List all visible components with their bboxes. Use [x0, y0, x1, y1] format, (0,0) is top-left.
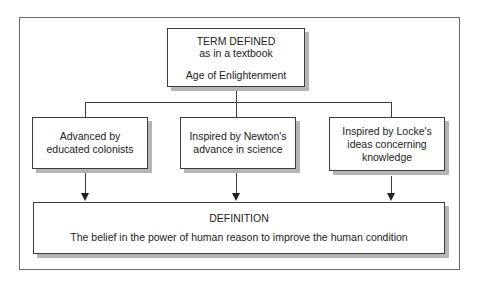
- supporting-text-line: Advanced by: [60, 130, 121, 143]
- connector-left-drop: [85, 102, 86, 117]
- supporting-text-line: ideas concerning: [347, 138, 426, 151]
- connector-horizontal: [85, 102, 392, 103]
- arrow-middle-shaft: [236, 173, 237, 195]
- connector-middle-drop: [236, 102, 237, 117]
- term-defined-subheading: as in a textbook: [199, 47, 273, 59]
- supporting-box-locke: Inspired by Locke's ideas concerning kno…: [329, 117, 445, 171]
- definition-heading: DEFINITION: [209, 212, 269, 225]
- supporting-text-line: Inspired by Locke's: [342, 125, 432, 138]
- arrow-down-icon: [387, 193, 395, 201]
- term-defined-heading: TERM DEFINED: [197, 35, 276, 47]
- arrow-left-shaft: [85, 173, 86, 195]
- supporting-box-colonists: Advanced by educated colonists: [32, 117, 148, 169]
- connector-right-drop: [391, 102, 392, 117]
- connector-top-vertical: [236, 91, 237, 102]
- supporting-text-line: knowledge: [362, 151, 412, 164]
- supporting-text-line: educated colonists: [47, 143, 134, 156]
- arrow-down-icon: [232, 193, 240, 201]
- supporting-text-line: advance in science: [193, 143, 282, 156]
- definition-box: DEFINITION The belief in the power of hu…: [33, 202, 445, 254]
- term-name: Age of Enlightenment: [186, 69, 286, 81]
- term-defined-box: TERM DEFINED as in a textbook Age of Enl…: [167, 28, 305, 87]
- definition-text: The belief in the power of human reason …: [70, 231, 407, 244]
- supporting-text-line: Inspired by Newton's: [189, 130, 286, 143]
- arrow-down-icon: [81, 193, 89, 201]
- supporting-box-newton: Inspired by Newton's advance in science: [180, 117, 296, 169]
